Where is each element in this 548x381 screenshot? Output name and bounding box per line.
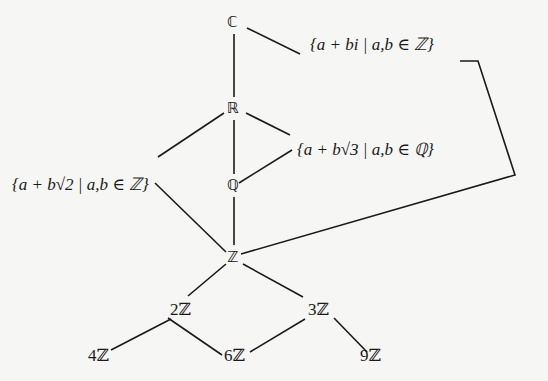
node-9Z: 9ℤ bbox=[360, 346, 381, 366]
edge-R-sqrt3 bbox=[246, 113, 290, 135]
edge-Z-3Z bbox=[243, 264, 303, 297]
edge-Q-sqrt3 bbox=[239, 150, 292, 183]
edge-C-gauss bbox=[247, 28, 300, 54]
node-rationals: ℚ bbox=[227, 175, 239, 195]
node-integers: ℤ bbox=[227, 247, 238, 267]
node-reals: ℝ bbox=[227, 98, 239, 118]
edge-2Z-4Z bbox=[111, 319, 171, 350]
node-3Z: 3ℤ bbox=[308, 300, 329, 320]
node-6Z: 6ℤ bbox=[224, 346, 245, 366]
node-4Z: 4ℤ bbox=[88, 346, 109, 366]
node-z-sqrt2: {a + b√2 | a,b ∈ ℤ} bbox=[12, 175, 149, 195]
node-gaussian-integers: {a + bi | a,b ∈ ℤ} bbox=[310, 35, 434, 55]
edge-sqrt2-Z bbox=[155, 183, 226, 252]
node-2Z: 2ℤ bbox=[170, 300, 191, 320]
edge-R-sqrt2 bbox=[158, 113, 224, 157]
node-q-sqrt3: {a + b√3 | a,b ∈ ℚ} bbox=[297, 140, 434, 160]
node-complex: ℂ bbox=[227, 12, 237, 32]
edge-3Z-6Z bbox=[250, 319, 305, 352]
edge-2Z-6Z bbox=[168, 318, 222, 355]
subring-lattice-diagram: ℂ ℝ ℚ ℤ {a + bi | a,b ∈ ℤ} {a + b√2 | a,… bbox=[0, 0, 548, 381]
edge-Z-2Z bbox=[188, 264, 226, 296]
